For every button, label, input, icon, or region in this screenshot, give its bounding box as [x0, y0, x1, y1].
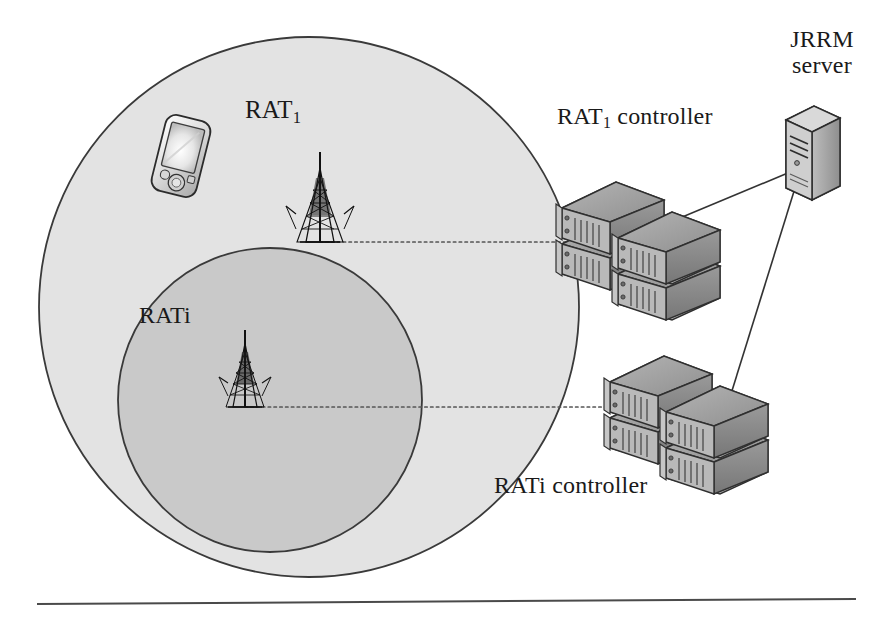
label-rati: RATi [139, 303, 191, 329]
network-architecture-figure: RAT1 RATi RAT1 controller RATi controlle… [0, 0, 876, 617]
jrrm-server-icon [786, 106, 840, 200]
label-rat1-controller-subscript: 1 [603, 114, 611, 131]
coverage-area-rati [118, 248, 422, 552]
label-rat1-controller-suffix: controller [611, 103, 713, 129]
label-rat1-controller-prefix: RAT [557, 103, 603, 129]
horizontal-rule [37, 599, 856, 604]
label-rat1-subscript: 1 [293, 108, 301, 127]
rat1-controller-icon [556, 182, 720, 320]
label-jrrm-server-line2: server [772, 53, 872, 79]
label-jrrm-server-line1: JRRM [772, 27, 872, 53]
label-rat1-text: RAT [245, 96, 293, 123]
link-rati-controller-to-jrrm-server [726, 172, 800, 410]
label-rati-controller: RATi controller [494, 473, 647, 499]
label-jrrm-server: JRRMserver [772, 27, 872, 79]
label-rat1: RAT1 [245, 96, 301, 123]
diagram-canvas [0, 0, 876, 617]
label-rat1-controller: RAT1 controller [557, 104, 713, 130]
